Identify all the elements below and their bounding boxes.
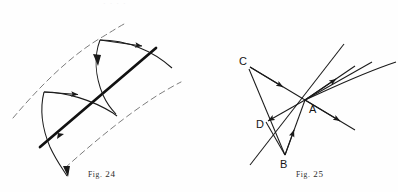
figure-25-group — [249, 44, 396, 165]
figure-page: · · · · — [0, 0, 398, 192]
outgoing-curve-right — [305, 62, 396, 100]
figure-24-caption-prefix: Fig. — [88, 170, 102, 179]
label-point-a: A — [309, 103, 316, 115]
label-point-c: C — [239, 55, 247, 67]
ray-c-to-b — [249, 69, 285, 155]
heavy-ray-arrow-tick — [57, 133, 64, 139]
figure-25-caption-prefix: Fig. — [296, 170, 310, 179]
dashed-guide-lower — [65, 82, 181, 168]
figure-25-caption: Fig. 25 — [296, 169, 324, 179]
figure-24-caption-number: 24 — [105, 169, 115, 179]
ray-b-to-a-arrow — [285, 130, 294, 155]
figure-24-caption: Fig. 24 — [88, 169, 116, 179]
figures-canvas — [0, 0, 398, 192]
figure-25-caption-number: 25 — [313, 169, 323, 179]
wavefront-arc-right-arrowhead — [93, 54, 101, 66]
propagation-arrow-left — [44, 92, 78, 95]
label-point-d: D — [256, 118, 264, 130]
ray-d-to-b — [266, 122, 285, 155]
dashed-guide-upper — [13, 23, 126, 118]
label-point-b: B — [280, 158, 287, 170]
figure-24-group — [13, 23, 181, 177]
propagation-arrow-right — [100, 40, 142, 46]
wavefront-arc-right — [96, 40, 116, 114]
